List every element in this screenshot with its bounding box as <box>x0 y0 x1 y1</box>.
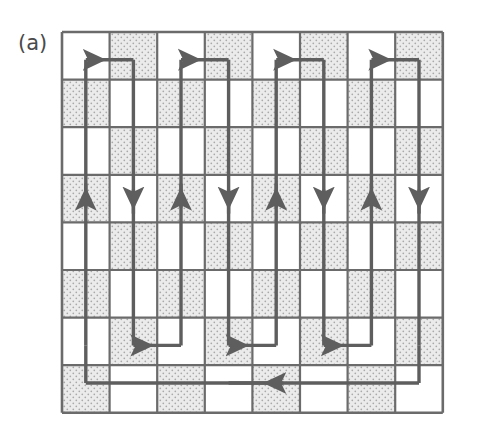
grid-diagram <box>0 0 480 430</box>
coverage-path-figure: (a) <box>0 0 480 430</box>
panel-label: (a) <box>18 33 47 54</box>
